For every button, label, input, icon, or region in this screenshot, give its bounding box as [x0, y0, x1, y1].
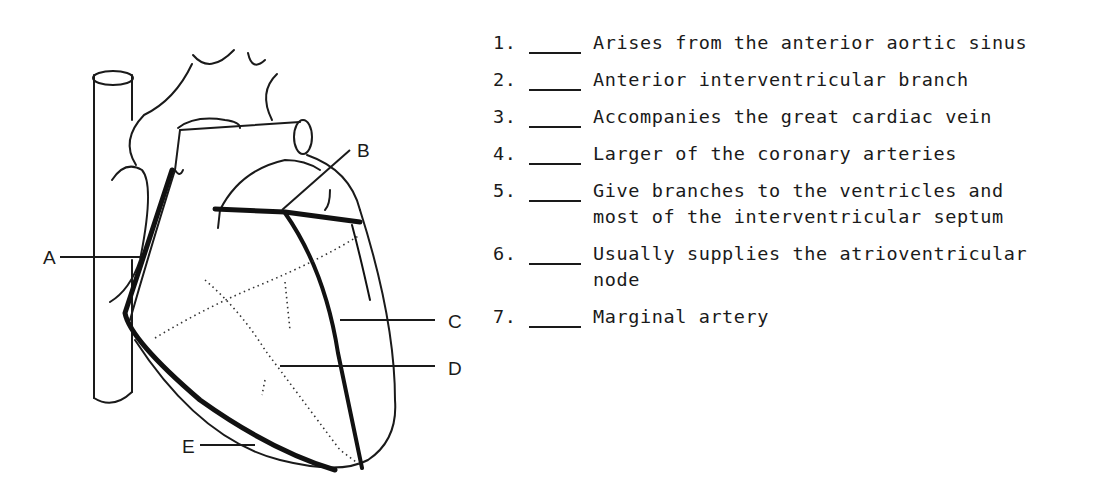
question-number: 6.	[493, 241, 523, 267]
label-e: E	[182, 436, 195, 457]
heart-diagram: A B C D E	[20, 20, 480, 500]
question-number: 2.	[493, 67, 523, 93]
answer-blank[interactable]	[529, 104, 581, 128]
question-text: Larger of the coronary arteries	[593, 141, 1093, 167]
question-item: 2. Anterior interventricular branch	[493, 67, 1093, 93]
question-text: Anterior interventricular branch	[593, 67, 1093, 93]
question-number: 3.	[493, 104, 523, 130]
answer-blank[interactable]	[529, 178, 581, 202]
question-item: 5. Give branches to the ventricles and m…	[493, 178, 1023, 230]
question-item: 4. Larger of the coronary arteries	[493, 141, 1093, 167]
question-item: 1. Arises from the anterior aortic sinus	[493, 30, 1093, 56]
question-item: 3. Accompanies the great cardiac vein	[493, 104, 1093, 130]
answer-blank[interactable]	[529, 30, 581, 54]
question-text: Marginal artery	[593, 304, 1093, 330]
matching-question-list: 1. Arises from the anterior aortic sinus…	[493, 30, 1093, 341]
question-number: 4.	[493, 141, 523, 167]
question-number: 1.	[493, 30, 523, 56]
question-text: Give branches to the ventricles and most…	[593, 178, 1023, 230]
label-a: A	[43, 247, 56, 268]
label-c: C	[448, 311, 462, 332]
question-number: 7.	[493, 304, 523, 330]
label-b: B	[357, 140, 370, 161]
question-item: 7. Marginal artery	[493, 304, 1093, 330]
label-d: D	[448, 358, 462, 379]
answer-blank[interactable]	[529, 67, 581, 91]
answer-blank[interactable]	[529, 304, 581, 328]
answer-blank[interactable]	[529, 241, 581, 265]
heart-illustration: A B C D E	[20, 20, 480, 500]
question-text: Arises from the anterior aortic sinus	[593, 30, 1093, 56]
question-number: 5.	[493, 178, 523, 204]
question-item: 6. Usually supplies the atrioventricular…	[493, 241, 1063, 293]
answer-blank[interactable]	[529, 141, 581, 165]
question-text: Usually supplies the atrioventricular no…	[593, 241, 1063, 293]
question-text: Accompanies the great cardiac vein	[593, 104, 1093, 130]
